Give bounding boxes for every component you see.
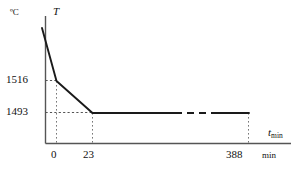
x-tick-label-388: 388 bbox=[226, 149, 243, 160]
y-tick-label-1516: 1516 bbox=[6, 74, 28, 85]
x-tick-label-23: 23 bbox=[83, 149, 94, 160]
chart-canvas bbox=[0, 0, 298, 177]
y-axis-symbol-label: T bbox=[53, 6, 59, 17]
curve-cooling-segment bbox=[42, 28, 93, 113]
y-tick-label-1493: 1493 bbox=[6, 106, 28, 117]
y-axis-unit-label: ºC bbox=[10, 8, 19, 17]
cooling-curve-figure: ºC T 1516 1493 0 23 388 min tmin bbox=[0, 0, 298, 177]
x-tick-label-0: 0 bbox=[51, 149, 57, 160]
x-axis-unit-label: min bbox=[262, 151, 276, 160]
x-axis-symbol-subscript: min bbox=[271, 131, 283, 140]
x-axis-symbol-label: tmin bbox=[268, 127, 283, 139]
